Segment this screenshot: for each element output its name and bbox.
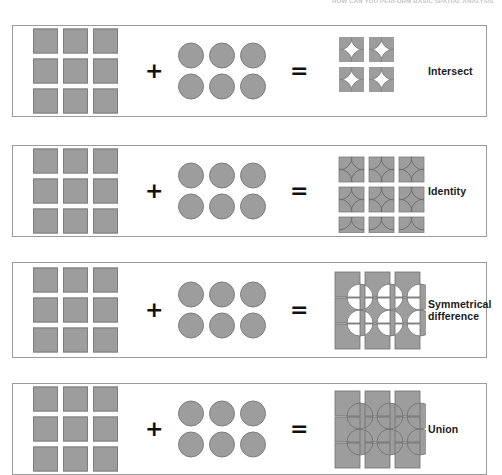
circle-cell [240,313,266,339]
square-cell [93,29,118,54]
square-cell [63,179,88,204]
square-cell [33,298,58,323]
square-cell [93,328,118,353]
result-graphic-union [331,387,426,471]
operation-panel-symmetrical-difference: + = [12,262,487,358]
square-cell [93,447,118,472]
symmetrical-difference-diagram-svg [331,268,426,352]
square-cell [93,209,118,234]
square-cell [63,298,88,323]
circle-cell [240,401,266,427]
circle-cell [240,74,266,100]
operation-label: Union [428,423,458,435]
plus-operator: + [145,60,163,82]
operation-label: Identity [428,185,466,197]
circle-cell [209,432,235,458]
circle-cell [178,194,204,220]
square-cell [33,59,58,84]
square-cell [63,209,88,234]
circles-operand-grid [178,282,266,339]
circle-cell [240,282,266,308]
circle-cell [178,432,204,458]
result-graphic-symmetrical-difference [331,268,426,352]
square-cell [93,59,118,84]
square-cell [33,209,58,234]
square-cell [63,328,88,353]
squares-operand-grid [33,149,118,234]
circle-cell [178,401,204,427]
squares-operand-grid [33,268,118,353]
square-cell [63,29,88,54]
page-caption: HOW CAN YOU PERFORM BASIC SPATIAL ANALYS… [332,0,494,3]
circle-cell [209,163,235,189]
circle-cell [178,282,204,308]
operation-panel-intersect: + = [12,25,487,117]
square-cell [93,387,118,412]
plus-operator: + [145,299,163,321]
equals-operator: = [290,60,308,82]
circle-cell [178,313,204,339]
square-cell [93,149,118,174]
circles-operand-grid [178,163,266,220]
square-cell [63,268,88,293]
square-cell [33,447,58,472]
circle-cell [240,163,266,189]
plus-operator: + [145,180,163,202]
circle-cell [178,163,204,189]
circle-cell [209,74,235,100]
circle-cell [178,74,204,100]
circles-operand-grid [178,43,266,100]
square-cell [33,29,58,54]
square-cell [33,149,58,174]
squares-operand-grid [33,29,118,114]
equals-operator: = [290,418,308,440]
circle-cell [240,43,266,69]
square-cell [63,447,88,472]
circle-cell [209,194,235,220]
plus-operator: + [145,418,163,440]
circle-cell [209,313,235,339]
square-cell [93,89,118,114]
circles-operand-grid [178,401,266,458]
operation-panel-identity: + = [12,145,487,237]
square-cell [63,89,88,114]
square-cell [63,149,88,174]
circle-cell [240,194,266,220]
result-graphic-intersect [331,29,426,113]
result-graphic-identity [331,149,426,233]
circle-cell [240,432,266,458]
square-cell [63,417,88,442]
square-cell [33,328,58,353]
operation-label: Symmetrical difference [428,298,492,322]
identity-diagram-svg [331,149,426,233]
square-cell [63,59,88,84]
operation-label: Intersect [428,65,473,77]
square-cell [33,89,58,114]
square-cell [63,387,88,412]
circle-cell [209,282,235,308]
circle-cell [178,43,204,69]
square-cell [33,387,58,412]
circle-cell [209,401,235,427]
equals-operator: = [290,299,308,321]
square-cell [33,268,58,293]
union-diagram-svg [331,387,426,471]
square-cell [93,298,118,323]
operation-panel-union: + = [12,383,487,475]
square-cell [33,179,58,204]
square-cell [93,268,118,293]
square-cell [93,417,118,442]
square-cell [33,417,58,442]
intersect-diagram-svg [331,29,426,113]
equals-operator: = [290,180,308,202]
square-cell [93,179,118,204]
circle-cell [209,43,235,69]
squares-operand-grid [33,387,118,472]
